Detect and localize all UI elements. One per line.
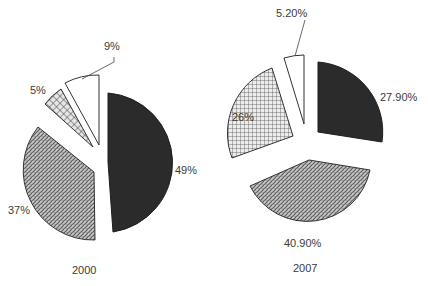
pie-chart-2007: 5.20% 26% 27.90% 40.90% 2007: [227, 7, 417, 274]
leader-line-2007-white: [295, 20, 305, 56]
pie-chart-2000: 9% 5% 49% 37% 2000: [8, 40, 197, 276]
title-2007: 2007: [293, 262, 317, 274]
label-2000-cross: 5%: [30, 84, 46, 96]
label-2000-white: 9%: [104, 40, 120, 52]
slice-2007-hatch: [250, 160, 370, 221]
title-2000: 2000: [72, 264, 96, 276]
pie-charts-figure: 9% 5% 49% 37% 2000 5.20% 26% 27.90% 40.9…: [0, 0, 428, 286]
label-2007-dark: 27.90%: [380, 91, 418, 103]
slice-2007-white: [284, 55, 304, 124]
slice-2000-hatch: [23, 127, 95, 240]
slice-2007-dark: [318, 62, 383, 142]
label-2007-grid: 26%: [232, 111, 254, 123]
slice-2000-dark: [108, 93, 173, 232]
label-2007-hatch: 40.90%: [284, 237, 322, 249]
label-2007-white: 5.20%: [276, 7, 307, 19]
label-2000-hatch: 37%: [8, 204, 30, 216]
label-2000-dark: 49%: [175, 164, 197, 176]
